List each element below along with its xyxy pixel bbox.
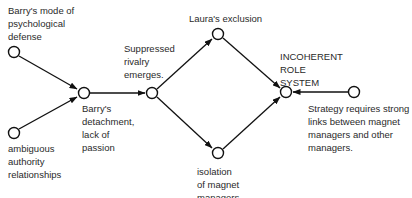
edge-mode-detachment <box>19 56 77 89</box>
node-strategy <box>349 87 360 98</box>
label-detachment: Barry's detachment, lack of passion <box>82 102 134 154</box>
label-incoherent: INCOHERENT ROLE SYSTEM <box>280 50 343 89</box>
label-strategy: Strategy requires strong links between m… <box>308 102 409 154</box>
node-laura <box>213 29 224 40</box>
label-rivalry: Suppressed rivalry emerges. <box>124 42 175 81</box>
node-detachment <box>79 88 90 99</box>
edge-rivalry-isolation <box>157 97 212 148</box>
edge-laura-incoherent <box>223 38 280 88</box>
label-isolation: isolation of magnet managers <box>197 165 239 198</box>
node-authority <box>9 128 20 139</box>
edge-isolation-incoherent <box>223 97 280 149</box>
edge-authority-detachment <box>19 97 77 129</box>
node-rivalry <box>147 88 158 99</box>
label-laura: Laura's exclusion <box>189 12 262 25</box>
label-mode: Barry's mode of psychological defense <box>8 4 74 43</box>
node-mode <box>9 47 20 58</box>
node-isolation <box>213 148 224 159</box>
label-authority: ambiguous authority relationships <box>8 142 61 181</box>
